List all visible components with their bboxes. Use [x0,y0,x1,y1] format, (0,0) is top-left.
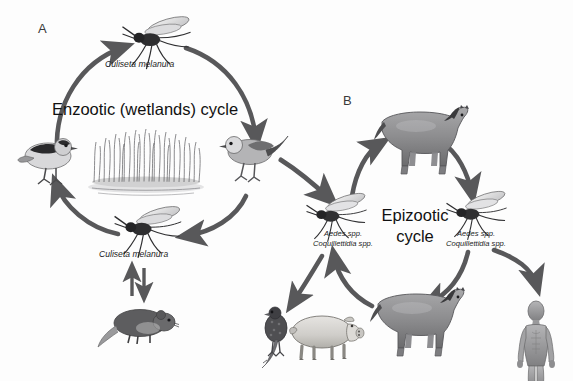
horse-top [374,105,469,174]
label-aedes-left: Aedes spp. [300,229,386,239]
pig [290,316,364,360]
epizootic-title-line-1: Epizootic [376,205,454,226]
label-vectors-epizootic-right: Aedes spp. Coquillettidia spp. [433,229,519,249]
organism-layer [0,0,573,381]
bird-right [219,136,288,182]
label-aedes-right: Aedes spp. [433,229,519,239]
label-coquillettidia-right: Coquillettidia spp. [433,239,519,249]
figure-arbovirus-transmission-cycles: A B Enzootic (wetlands) cycle Epizootic … [0,0,573,381]
label-culiseta-melanura-top: Culiseta melanura [105,60,174,70]
pheasant [262,307,287,368]
label-culiseta-melanura-bottom: Culiseta melanura [99,250,168,260]
label-vectors-epizootic-left: Aedes spp. Coquillettidia spp. [300,229,386,249]
panel-letter-b: B [343,94,352,109]
bird-left [18,139,78,186]
label-coquillettidia-left: Coquillettidia spp. [300,239,386,249]
panel-letter-a: A [38,22,47,37]
rodent [98,310,179,348]
wetland-marsh [88,129,204,195]
enzootic-cycle-title: Enzootic (wetlands) cycle [52,100,238,119]
horse-bottom [370,287,465,356]
human-figure [517,301,555,381]
